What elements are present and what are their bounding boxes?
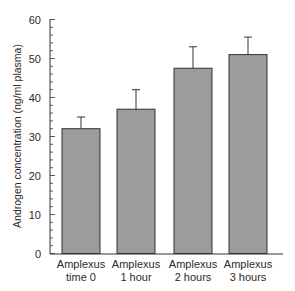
x-category-label: 3 hours	[230, 271, 267, 283]
y-tick-label: 20	[29, 170, 41, 182]
y-tick-label: 50	[29, 53, 41, 65]
y-tick-label: 60	[29, 14, 41, 26]
x-category-label: time 0	[66, 271, 96, 283]
y-tick-label: 10	[29, 209, 41, 221]
x-category-label: Amplexus	[169, 258, 218, 270]
bar	[229, 55, 267, 254]
y-tick-label: 40	[29, 92, 41, 104]
bars	[62, 37, 267, 253]
bar	[117, 109, 155, 253]
bar	[62, 129, 100, 254]
y-axis-ticks: 0102030405060	[29, 14, 55, 260]
x-category-label: 2 hours	[175, 271, 212, 283]
x-category-label: 1 hour	[120, 271, 152, 283]
x-category-label: Amplexus	[224, 258, 273, 270]
y-axis-label: Androgen concentration (ng/ml plasma)	[11, 44, 23, 228]
bar	[174, 68, 212, 253]
x-axis-labels: Amplexustime 0Amplexus1 hourAmplexus2 ho…	[57, 258, 273, 283]
bar-chart: 0102030405060 Amplexustime 0Amplexus1 ho…	[0, 0, 295, 291]
x-category-label: Amplexus	[112, 258, 161, 270]
x-category-label: Amplexus	[57, 258, 106, 270]
y-tick-label: 30	[29, 131, 41, 143]
y-tick-label: 0	[35, 248, 41, 260]
